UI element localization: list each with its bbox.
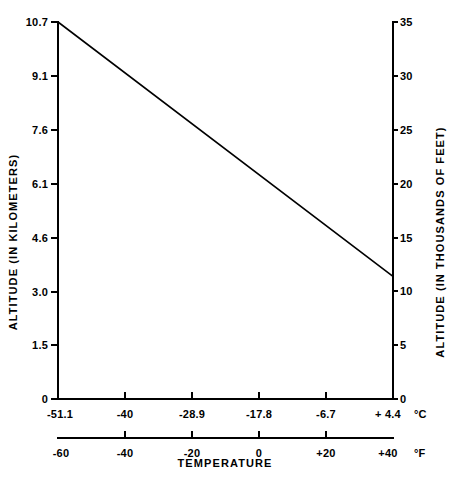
right-tick-label-6: 30 bbox=[400, 71, 413, 82]
right-tick-label-2: 10 bbox=[400, 286, 413, 297]
celsius-axis-left-cap bbox=[57, 393, 59, 399]
left-tick-1 bbox=[51, 344, 57, 346]
fahrenheit-tick-label-5: +40 bbox=[378, 448, 397, 459]
celsius-tick-label-1: -40 bbox=[117, 409, 134, 420]
right-axis-title: ALTITUDE (IN THOUSANDS OF FEET) bbox=[435, 126, 446, 357]
right-tick-2 bbox=[392, 290, 398, 292]
left-tick-label-0: 0 bbox=[10, 394, 48, 405]
celsius-tick-label-3: -17.8 bbox=[246, 409, 272, 420]
right-tick-label-5: 25 bbox=[400, 125, 413, 136]
left-tick-3 bbox=[51, 237, 57, 239]
celsius-tick-4 bbox=[325, 392, 327, 398]
right-tick-label-7: 35 bbox=[400, 17, 413, 28]
fahrenheit-tick-3 bbox=[258, 431, 260, 437]
celsius-tick-2 bbox=[191, 392, 193, 398]
celsius-tick-label-4: -6.7 bbox=[316, 409, 336, 420]
left-tick-label-5: 7.6 bbox=[10, 125, 48, 136]
right-tick-label-3: 15 bbox=[400, 233, 413, 244]
right-tick-5 bbox=[392, 129, 398, 131]
right-tick-label-1: 5 bbox=[400, 340, 406, 351]
right-tick-0 bbox=[392, 398, 398, 400]
left-tick-4 bbox=[51, 183, 57, 185]
right-tick-label-0: 0 bbox=[400, 394, 406, 405]
fahrenheit-tick-label-4: +20 bbox=[316, 448, 335, 459]
left-tick-label-7: 10.7 bbox=[4, 17, 48, 28]
fahrenheit-tick-1 bbox=[124, 431, 126, 437]
celsius-tick-1 bbox=[124, 392, 126, 398]
fahrenheit-tick-2 bbox=[191, 431, 193, 437]
celsius-axis-rule bbox=[57, 398, 394, 400]
right-tick-1 bbox=[392, 344, 398, 346]
celsius-tick-label-0: -51.1 bbox=[47, 409, 73, 420]
left-tick-6 bbox=[51, 75, 57, 77]
x-axis-title: TEMPERATURE bbox=[177, 458, 272, 469]
left-tick-5 bbox=[51, 129, 57, 131]
right-tick-4 bbox=[392, 183, 398, 185]
fahrenheit-tick-label-1: -40 bbox=[117, 448, 134, 459]
left-tick-0 bbox=[51, 398, 57, 400]
left-tick-label-1: 1.5 bbox=[10, 340, 48, 351]
left-axis-spine bbox=[57, 21, 59, 400]
right-tick-6 bbox=[392, 75, 398, 77]
celsius-tick-label-5: + 4.4 bbox=[375, 409, 401, 420]
fahrenheit-tick-4 bbox=[325, 431, 327, 437]
fahrenheit-axis-rule bbox=[57, 437, 394, 439]
right-tick-label-4: 20 bbox=[400, 179, 413, 190]
fahrenheit-unit-label: °F bbox=[414, 448, 425, 459]
left-axis-title: ALTITUDE (IN KILOMETERS) bbox=[8, 154, 19, 331]
celsius-unit-label: °C bbox=[414, 409, 426, 420]
right-tick-3 bbox=[392, 237, 398, 239]
chart-figure: 0 1.5 3.0 4.6 6.1 7.6 9.1 10.7 0 5 10 15… bbox=[0, 0, 449, 484]
left-tick-2 bbox=[51, 291, 57, 293]
left-tick-label-6: 9.1 bbox=[10, 71, 48, 82]
right-tick-7 bbox=[392, 21, 398, 23]
celsius-tick-3 bbox=[258, 392, 260, 398]
left-tick-7 bbox=[51, 21, 57, 23]
fahrenheit-tick-label-0: -60 bbox=[53, 448, 70, 459]
celsius-tick-label-2: -28.9 bbox=[179, 409, 205, 420]
